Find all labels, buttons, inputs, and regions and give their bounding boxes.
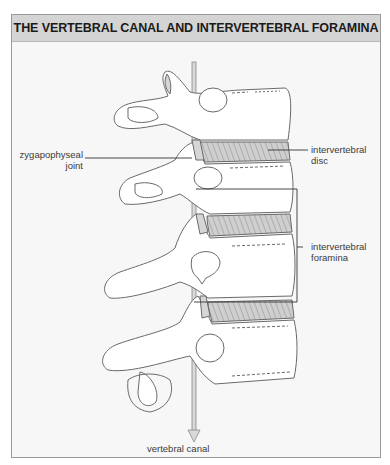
label-zygapophyseal-joint: zygapophyseal joint (18, 149, 83, 171)
label-line: intervertebral (311, 241, 366, 252)
vertebra-1 (114, 71, 291, 140)
label-line: joint (18, 160, 83, 171)
vertebral-column-illustration (0, 0, 390, 465)
label-line: zygapophyseal (18, 149, 83, 160)
label-vertebral-canal: vertebral canal (147, 443, 209, 454)
label-line: intervertebral (311, 144, 366, 155)
intervertebral-disc-2 (207, 214, 292, 236)
label-intervertebral-foramina: intervertebral foramina (311, 241, 366, 263)
label-intervertebral-disc: intervertebral disc (311, 144, 366, 166)
intervertebral-disc-3 (208, 300, 294, 322)
label-line: disc (311, 155, 366, 166)
label-line: foramina (311, 252, 366, 263)
intervertebral-disc-1 (200, 142, 290, 162)
